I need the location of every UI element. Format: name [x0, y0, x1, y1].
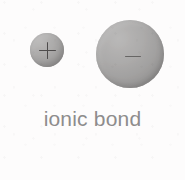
anion-sphere [96, 20, 164, 88]
ionic-bond-figure: + − ionic bond [0, 0, 185, 180]
cation-sphere [30, 33, 64, 67]
figure-caption: ionic bond [0, 106, 185, 131]
